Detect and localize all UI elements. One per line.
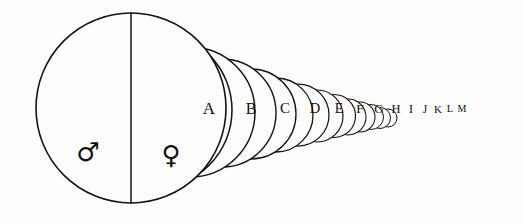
venus-symbol: ♀: [161, 140, 180, 170]
circles-diagram: ♂♀ABCDEFGHIJKLM: [0, 0, 523, 224]
series-label-d: D: [310, 100, 320, 116]
series-label-a: A: [203, 99, 216, 118]
series-label-b: B: [246, 100, 257, 117]
mars-symbol: ♂: [76, 137, 99, 167]
figure-container: ♂♀ABCDEFGHIJKLM: [0, 0, 523, 224]
series-label-j: J: [423, 103, 428, 115]
main-circle-group: [36, 13, 226, 203]
series-label-k: K: [434, 103, 442, 115]
series-label-l: L: [447, 103, 453, 114]
series-label-g: G: [374, 101, 383, 116]
series-label-c: C: [280, 100, 290, 116]
series-label-e: E: [335, 101, 344, 116]
series-label-i: I: [409, 102, 413, 116]
series-label-m: M: [458, 103, 467, 114]
series-label-f: F: [356, 101, 364, 116]
series-label-h: H: [391, 102, 400, 116]
